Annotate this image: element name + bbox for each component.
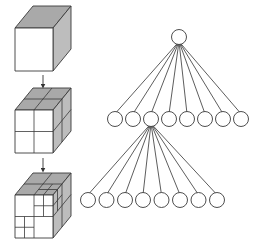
level2-node <box>154 193 169 208</box>
tree-edge <box>151 124 217 195</box>
tree-edge <box>133 42 179 114</box>
tree-edge <box>151 124 199 195</box>
tree-edge <box>88 124 151 195</box>
tree-edge <box>169 42 179 114</box>
level1-node <box>126 112 141 127</box>
octree-diagram <box>0 0 259 251</box>
level2-node <box>118 193 133 208</box>
cube-column <box>15 6 71 238</box>
tree-nodes <box>81 30 249 208</box>
level1-node <box>234 112 249 127</box>
level1-node <box>162 112 177 127</box>
front-face <box>15 28 53 71</box>
level1-node <box>144 112 159 127</box>
tree-edge <box>179 42 241 114</box>
level2-node <box>81 193 96 208</box>
root-node <box>172 30 187 45</box>
cube-2 <box>15 173 71 238</box>
level2-node <box>191 193 206 208</box>
level2-node <box>210 193 225 208</box>
tree-edge <box>151 124 180 195</box>
level1-node <box>108 112 123 127</box>
diagram-svg <box>0 0 259 251</box>
level2-node <box>99 193 114 208</box>
tree-edge <box>115 42 179 114</box>
cube-0 <box>15 6 71 71</box>
level1-node <box>180 112 195 127</box>
cube-1 <box>15 88 71 153</box>
tree-edge <box>151 42 179 114</box>
tree-edge <box>151 124 162 195</box>
level2-node <box>173 193 188 208</box>
level2-node <box>136 193 151 208</box>
level1-node <box>216 112 231 127</box>
level1-node <box>198 112 213 127</box>
